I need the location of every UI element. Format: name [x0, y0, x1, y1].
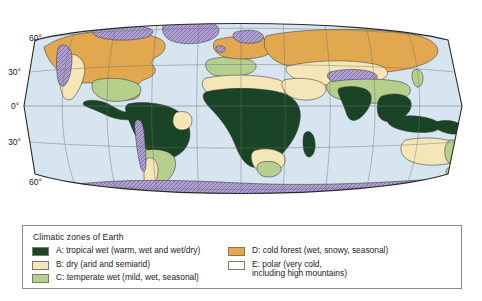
legend-title: Climatic zones of Earth — [33, 232, 452, 242]
lat-label-0: 0° — [11, 101, 19, 111]
iceland-polar — [216, 46, 225, 53]
legend-label-d: D: cold forest (wet, snowy, seasonal) — [252, 246, 388, 256]
legend-item-b: B: dry (arid and semiarid) — [32, 260, 228, 271]
antarctica-polar — [48, 179, 449, 206]
legend-item-c: C: temperate wet (mild, wet, seasonal) — [32, 273, 228, 284]
swatch-temperate-wet — [32, 274, 49, 283]
swatch-tropical-wet — [32, 247, 49, 256]
swatch-polar — [228, 261, 245, 270]
swatch-polar-hatch — [229, 269, 244, 270]
europe-temperate — [206, 57, 256, 77]
map-svg: 60° 30° 0° 30° 60° — [0, 0, 482, 212]
lat-label-30n: 30° — [8, 67, 21, 77]
legend-panel: Climatic zones of Earth A: tropical wet … — [22, 225, 462, 289]
lat-label-30s: 30° — [8, 137, 21, 147]
legend-columns: A: tropical wet (warm, wet and wet/dry) … — [32, 246, 452, 287]
africa-south-temperate — [257, 161, 281, 177]
legend-item-a: A: tropical wet (warm, wet and wet/dry) — [32, 246, 228, 257]
legend-column-left: A: tropical wet (warm, wet and wet/dry) … — [32, 246, 228, 287]
legend-label-a: A: tropical wet (warm, wet and wet/dry) — [56, 246, 200, 256]
legend-label-b: B: dry (arid and semiarid) — [56, 260, 150, 270]
legend-item-d: D: cold forest (wet, snowy, seasonal) — [228, 246, 438, 257]
south-america-dry — [173, 111, 192, 130]
lat-label-60s: 60° — [29, 177, 42, 187]
legend-column-right: D: cold forest (wet, snowy, seasonal) E:… — [228, 246, 438, 281]
lat-label-60n: 60° — [29, 33, 42, 43]
legend-label-e: E: polar (very cold, includ­ing high mou… — [252, 260, 347, 279]
legend-label-c: C: temperate wet (mild, wet, seasonal) — [56, 273, 199, 283]
swatch-cold-forest — [228, 247, 245, 256]
new-zealand-temperate — [469, 157, 477, 170]
madagascar-tropical — [303, 131, 315, 157]
legend-item-e: E: polar (very cold, includ­ing high mou… — [228, 260, 438, 279]
swatch-dry — [32, 261, 49, 270]
world-climate-map: 60° 30° 0° 30° 60° — [0, 0, 482, 212]
ocean-layer — [0, 0, 482, 212]
scandinavia-polar — [233, 30, 264, 43]
